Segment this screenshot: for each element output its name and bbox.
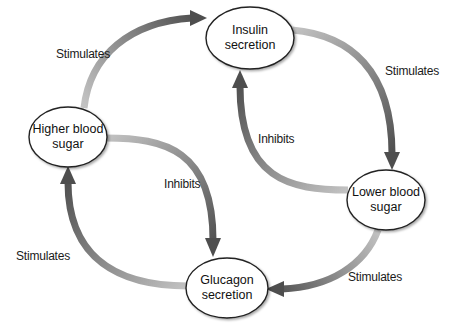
node-text: Insulin [225,23,276,38]
arrow-lower-to-glucagon [266,230,378,297]
node-text: Lower blood [352,185,420,200]
arrow-higher-to-glucagon [106,138,221,257]
node-text: sugar [33,137,104,152]
edge-label-higher-to-glucagon: Inhibits [164,177,200,191]
arrow-lower-to-insulin [232,70,348,190]
node-text: sugar [352,200,420,215]
edge-label-glucagon-to-higher: Stimulates [16,249,70,263]
node-text: secretion [225,38,276,53]
edge-label-lower-to-glucagon: Stimulates [348,270,402,284]
node-text: Glucagon [200,273,254,288]
edge-label-lower-to-insulin: Inhibits [258,132,294,146]
node-lower-blood-sugar: Lower bloodsugar [346,170,426,230]
node-text: Higher blood [33,122,104,137]
node-glucagon-secretion: Glucagonsecretion [186,258,268,318]
edge-label-higher-to-insulin: Stimulates [56,47,110,61]
edge-label-insulin-to-lower: Stimulates [385,64,439,78]
node-text: secretion [200,288,254,303]
node-higher-blood-sugar: Higher bloodsugar [28,107,108,167]
node-insulin-secretion: Insulinsecretion [206,8,294,68]
arrow-insulin-to-lower [292,30,400,170]
